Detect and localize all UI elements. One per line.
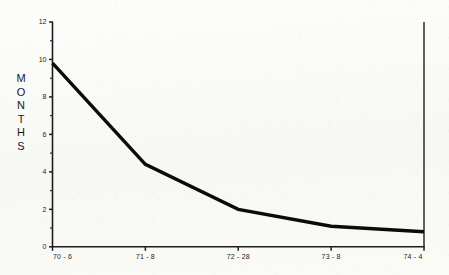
y-tick-label: 6	[43, 131, 47, 138]
data-series-line	[53, 63, 425, 232]
y-tick-label: 8	[43, 93, 47, 100]
x-tick-label: 71 - 8	[136, 253, 155, 260]
chart-screenshot: M O N T H S 024681012 70 - 671 - 872 - 2…	[0, 0, 449, 275]
y-tick-label: 12	[39, 18, 47, 25]
y-tick-label: 2	[43, 206, 47, 213]
x-tick-label: 70 - 6	[53, 253, 72, 260]
y-tick-label: 4	[43, 168, 47, 175]
line-chart: 024681012 70 - 671 - 872 - 2873 - 874 - …	[0, 0, 449, 275]
y-tick-label: 0	[43, 243, 47, 250]
x-axis-ticks: 70 - 671 - 872 - 2873 - 874 - 4	[53, 246, 425, 260]
x-tick-label: 73 - 8	[322, 253, 341, 260]
x-tick-label: 72 - 28	[227, 253, 250, 260]
x-tick-label: 74 - 4	[403, 253, 422, 260]
y-tick-label: 10	[39, 56, 47, 63]
y-axis-ticks: 024681012	[39, 18, 53, 250]
